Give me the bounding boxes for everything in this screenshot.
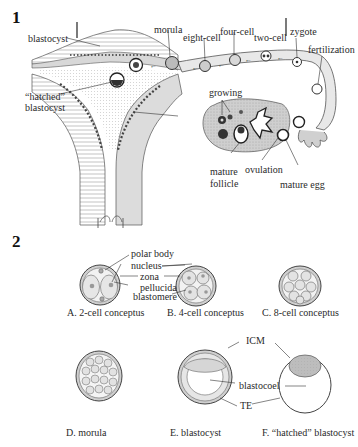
svg-text:←: ← [277,54,284,62]
uterus-illustration [32,30,182,228]
conceptus-8-cell [279,266,321,306]
embryo-development-diagram: ← ← ← ← ← [0,0,358,447]
svg-text:←: ← [150,62,157,70]
panel-2-number: 2 [12,232,21,252]
label-growing: growing [209,87,242,98]
caption-c: C. 8-cell conceptus [262,307,339,318]
label-zygote: zygote [290,26,317,37]
morula [76,351,122,401]
label-blastomere: blastomere [133,291,177,302]
label-blastocoel: blastocoel [239,380,280,391]
caption-a: A. 2-cell conceptus [67,307,144,318]
label-blastocyst: blastocyst [28,33,68,44]
label-eight-cell: eight-cell [183,32,221,43]
label-fertilization: fertilization [308,44,355,55]
label-icm: ICM [246,335,265,346]
conceptus-4-cell [176,266,216,306]
caption-e: E. blastocyst [170,427,221,438]
label-ovulation: ovulation [245,164,283,175]
conceptus-2-cell [80,265,120,305]
label-zona: zona [140,271,159,282]
label-polar-body: polar body [131,248,174,259]
hatched-blastocyst-f [279,355,331,413]
label-te: TE [240,400,252,411]
caption-d: D. morula [66,427,107,438]
svg-text:←: ← [192,64,199,72]
label-follicle: follicle [210,178,238,189]
label-hatched-blastocyst: blastocyst [25,102,65,113]
svg-text:←: ← [218,61,225,69]
label-two-cell: two-cell [254,32,287,43]
label-four-cell: four-cell [220,26,254,37]
label-mature-egg: mature egg [280,179,325,190]
caption-f: F. “hatched” blastocyst [262,427,354,438]
svg-text:←: ← [245,56,252,64]
label-nucleus: nucleus [131,260,162,271]
ovary-illustration [203,99,290,152]
label-mature: mature [210,166,238,177]
panel-1-number: 1 [12,8,21,28]
caption-b: B. 4-cell conceptus [167,307,244,318]
label-hatched: “hatched” [25,91,65,102]
blastocyst-e [178,350,232,404]
label-morula: morula [154,24,182,35]
